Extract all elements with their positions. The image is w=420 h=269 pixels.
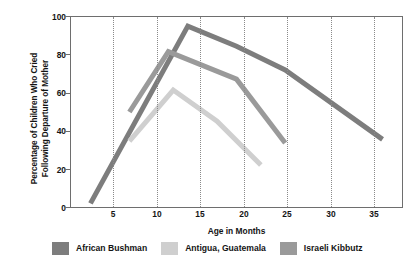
x-tick-10: 10	[152, 209, 161, 219]
x-tick-15: 15	[195, 209, 204, 219]
legend-swatch-icon-israeli-kibbutz	[280, 242, 297, 255]
gridline-25	[287, 17, 288, 207]
y-tick-20: 20	[38, 165, 66, 175]
x-axis-title: Age in Months	[70, 226, 403, 236]
chart-figure: Percentage of Children Who CriedFollowin…	[0, 0, 420, 269]
x-tick-30: 30	[326, 209, 335, 219]
y-tick-80: 80	[38, 50, 66, 60]
legend-label-israeli-kibbutz: Israeli Kibbutz	[304, 243, 363, 253]
series-line-african-bushman	[90, 26, 382, 203]
legend-item-antigua-guatemala[interactable]: Antigua, Guatemala	[161, 242, 266, 255]
legend-label-antigua-guatemala: Antigua, Guatemala	[185, 243, 266, 253]
chart-legend: African Bushman Antigua, Guatemala Israe…	[52, 239, 408, 257]
y-axis-tick-labels: 100 80 60 40 20 0	[36, 0, 66, 269]
gridline-20	[244, 17, 245, 207]
x-tick-25: 25	[282, 209, 291, 219]
x-tick-20: 20	[239, 209, 248, 219]
data-lines	[71, 17, 402, 207]
x-tick-5: 5	[111, 209, 116, 219]
legend-item-israeli-kibbutz[interactable]: Israeli Kibbutz	[280, 242, 363, 255]
y-tick-60: 60	[38, 88, 66, 98]
legend-item-african-bushman[interactable]: African Bushman	[52, 242, 147, 255]
gridline-10	[157, 17, 158, 207]
gridline-35	[374, 17, 375, 207]
legend-label-african-bushman: African Bushman	[76, 243, 147, 253]
gridline-5	[113, 17, 114, 207]
legend-swatch-icon-antigua-guatemala	[161, 242, 178, 255]
plot-area	[70, 16, 403, 208]
y-tick-0: 0	[38, 203, 66, 213]
series-line-israeli-kibbutz	[129, 52, 285, 143]
x-axis-tick-labels: 5 10 15 20 25 30 35	[70, 209, 403, 225]
legend-swatch-icon-african-bushman	[52, 242, 69, 255]
gridline-15	[200, 17, 201, 207]
gridline-30	[331, 17, 332, 207]
y-tick-40: 40	[38, 126, 66, 136]
y-tick-100: 100	[38, 12, 66, 22]
x-tick-35: 35	[369, 209, 378, 219]
